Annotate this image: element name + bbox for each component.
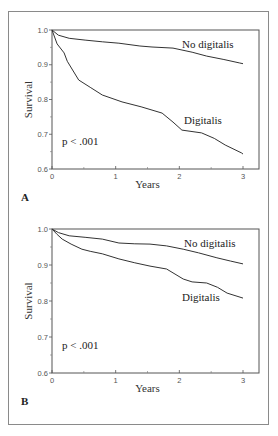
y-tick-label: 0.6 (38, 369, 48, 378)
p-value-annotation-b: p < .001 (62, 339, 98, 351)
y-tick-label: 1.0 (38, 26, 48, 35)
x-tick-label: 2 (177, 376, 181, 385)
x-axis-title-a: Years (135, 178, 160, 190)
x-tick-label: 1 (114, 172, 118, 181)
x-tick-label: 2 (177, 172, 181, 181)
panel-label-b: B (21, 395, 29, 407)
x-axis-title-b: Years (135, 382, 160, 394)
x-tick-label: 0 (50, 376, 54, 385)
series-label-no-digitalis: No digitalis (184, 237, 236, 249)
y-tick-label: 0.8 (38, 297, 48, 306)
p-value-annotation-a: p < .001 (62, 135, 98, 147)
y-tick-label: 0.6 (38, 165, 48, 174)
plot-area-a (52, 30, 259, 169)
y-axis-title-a: Survival (22, 81, 34, 118)
y-tick-label: 0.8 (38, 95, 48, 104)
x-tick-label: 0 (50, 172, 54, 181)
y-tick-label: 0.7 (38, 333, 48, 342)
series-label-digitalis: Digitalis (184, 114, 222, 126)
series-label-digitalis: Digitalis (182, 291, 220, 303)
panel-a: 0.60.70.80.91.0 0123 No digitalisDigital… (21, 26, 259, 204)
x-tick-label: 3 (241, 172, 245, 181)
y-axis-title-b: Survival (22, 282, 34, 319)
x-tick-label: 1 (114, 376, 118, 385)
series-label-no-digitalis: No digitalis (182, 38, 234, 50)
y-tick-label: 0.7 (38, 130, 48, 139)
y-tick-label: 0.9 (38, 261, 48, 270)
y-tick-label: 0.9 (38, 60, 48, 69)
survival-figure: 0.60.70.80.91.0 0123 No digitalisDigital… (0, 0, 278, 436)
panel-label-a: A (21, 191, 29, 203)
plot-area-b (52, 229, 259, 373)
x-tick-label: 3 (241, 376, 245, 385)
y-tick-label: 1.0 (38, 225, 48, 234)
panel-b: 0.60.70.80.91.0 0123 No digitalisDigital… (21, 225, 259, 408)
